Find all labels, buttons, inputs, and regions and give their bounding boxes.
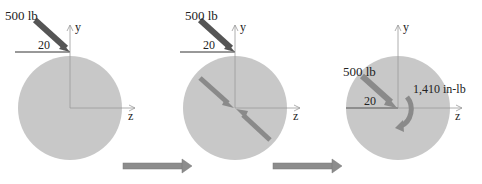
force-label: 500 lb <box>343 64 376 79</box>
step-arrow-1 <box>123 159 192 173</box>
step-arrow-2 <box>273 159 342 173</box>
y-axis-label: y <box>240 20 246 34</box>
z-axis-label: z <box>455 109 460 123</box>
y-axis-label: y <box>75 20 81 34</box>
panel-force-couple-system: 500 lb 20 1,410 in-lb y z <box>343 20 466 160</box>
force-label: 500 lb <box>185 8 218 23</box>
panel-equal-opposite-forces: 500 lb 20 y z <box>180 8 300 160</box>
angle-label: 20 <box>203 38 215 52</box>
moment-label: 1,410 in-lb <box>413 82 466 96</box>
angle-label: 20 <box>38 38 50 52</box>
z-axis-label: z <box>128 109 133 123</box>
force-label: 500 lb <box>5 8 38 23</box>
angle-label: 20 <box>364 94 376 108</box>
y-axis-label: y <box>403 20 409 34</box>
diagram-canvas: 500 lb 20 y z 500 lb 20 y z <box>0 0 482 184</box>
z-axis-label: z <box>293 109 298 123</box>
force-couple-diagram: 500 lb 20 y z 500 lb 20 y z <box>0 0 482 184</box>
panel-original-force: 500 lb 20 y z <box>5 8 135 160</box>
